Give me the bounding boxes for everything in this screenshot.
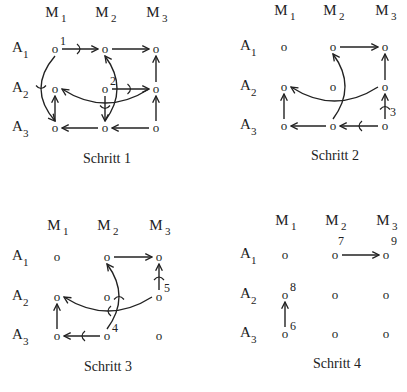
row-header-subscript: 1 xyxy=(251,254,257,266)
node: o xyxy=(153,120,160,135)
node: o xyxy=(104,249,111,264)
diagram-canvas: M1M2M3A1A2A3ooooooooo12Schritt 1M1M2M3A1… xyxy=(0,0,407,392)
column-header: M xyxy=(149,217,162,233)
panel-schritt-3: M1M2M3A1A2A3ooooooooo45Schritt 3 xyxy=(12,217,171,374)
node: o xyxy=(153,41,160,56)
node: o xyxy=(54,328,61,343)
node: o xyxy=(282,326,289,341)
row-header: A xyxy=(240,37,251,53)
step-number: 7 xyxy=(338,234,344,248)
row-header-subscript: 2 xyxy=(251,86,257,98)
node: o xyxy=(104,289,111,304)
column-header: M xyxy=(325,212,338,228)
column-header-subscript: 3 xyxy=(162,12,168,24)
row-header-subscript: 3 xyxy=(23,127,29,139)
panel-schritt-2: M1M2M3A1A2A3ooooooooo3Schritt 2 xyxy=(240,2,397,163)
node: o xyxy=(52,81,59,96)
row-header: A xyxy=(240,324,251,340)
column-header: M xyxy=(376,212,389,228)
column-header-subscript: 3 xyxy=(165,225,171,237)
node: o xyxy=(332,247,339,262)
step-number: 8 xyxy=(290,280,296,294)
row-header: A xyxy=(12,118,23,134)
node: o xyxy=(153,81,160,96)
node: o xyxy=(383,287,390,302)
column-header: M xyxy=(275,212,288,228)
step-number: 9 xyxy=(391,234,397,248)
row-header: A xyxy=(12,39,23,55)
node: o xyxy=(382,39,389,54)
panel-schritt-1: M1M2M3A1A2A3ooooooooo12Schritt 1 xyxy=(12,4,168,166)
column-header: M xyxy=(375,2,388,18)
column-header-subscript: 1 xyxy=(61,12,67,24)
node: o xyxy=(102,81,109,96)
step-number: 1 xyxy=(60,34,66,48)
node: o xyxy=(332,287,339,302)
step-number: 4 xyxy=(112,321,118,335)
node: o xyxy=(281,79,288,94)
panel-caption: Schritt 3 xyxy=(84,359,132,374)
column-header-subscript: 3 xyxy=(392,220,398,232)
node: o xyxy=(156,328,163,343)
column-header-subscript: 2 xyxy=(339,10,345,22)
column-header-subscript: 2 xyxy=(111,12,117,24)
node: o xyxy=(382,79,389,94)
panels: M1M2M3A1A2A3ooooooooo12Schritt 1M1M2M3A1… xyxy=(12,2,398,374)
row-header: A xyxy=(240,285,251,301)
column-header-subscript: 3 xyxy=(391,10,397,22)
node: o xyxy=(383,326,390,341)
node: o xyxy=(383,247,390,262)
node: o xyxy=(282,247,289,262)
node: o xyxy=(104,328,111,343)
row-header-subscript: 1 xyxy=(251,46,257,58)
row-header: A xyxy=(12,79,23,95)
row-header-subscript: 2 xyxy=(251,294,257,306)
column-header: M xyxy=(45,4,58,20)
column-header: M xyxy=(95,4,108,20)
column-header-subscript: 1 xyxy=(290,10,296,22)
node: o xyxy=(102,41,109,56)
panel-caption: Schritt 1 xyxy=(83,151,131,166)
node: o xyxy=(52,120,59,135)
row-header: A xyxy=(240,77,251,93)
step-number: 5 xyxy=(164,281,170,295)
column-header: M xyxy=(274,2,287,18)
row-header: A xyxy=(12,326,23,342)
column-header: M xyxy=(323,2,336,18)
node: o xyxy=(54,289,61,304)
node: o xyxy=(282,287,289,302)
row-header: A xyxy=(12,287,23,303)
node: o xyxy=(382,118,389,133)
panel-schritt-4: M1M2M3A1A2A3ooooooooo7986Schritt 4 xyxy=(240,212,398,371)
column-header: M xyxy=(47,217,60,233)
row-header: A xyxy=(240,116,251,132)
row-header: A xyxy=(240,245,251,261)
column-header-subscript: 1 xyxy=(63,225,69,237)
panel-caption: Schritt 4 xyxy=(313,356,361,371)
node: o xyxy=(281,39,288,54)
row-header-subscript: 3 xyxy=(23,335,29,347)
node: o xyxy=(330,79,337,94)
node: o xyxy=(156,289,163,304)
column-header: M xyxy=(97,217,110,233)
column-header-subscript: 2 xyxy=(341,220,347,232)
node: o xyxy=(332,326,339,341)
column-header-subscript: 2 xyxy=(113,225,119,237)
row-header-subscript: 3 xyxy=(251,125,257,137)
panel-caption: Schritt 2 xyxy=(311,148,359,163)
node: o xyxy=(52,41,59,56)
node: o xyxy=(102,120,109,135)
row-header-subscript: 2 xyxy=(23,88,29,100)
step-number: 3 xyxy=(390,105,396,119)
node: o xyxy=(156,249,163,264)
row-header: A xyxy=(12,247,23,263)
row-header-subscript: 3 xyxy=(251,333,257,345)
column-header: M xyxy=(146,4,159,20)
row-header-subscript: 1 xyxy=(23,256,29,268)
step-number: 6 xyxy=(290,319,296,333)
column-header-subscript: 1 xyxy=(291,220,297,232)
node: o xyxy=(54,249,61,264)
row-header-subscript: 2 xyxy=(23,296,29,308)
row-header-subscript: 1 xyxy=(23,48,29,60)
node: o xyxy=(281,118,288,133)
